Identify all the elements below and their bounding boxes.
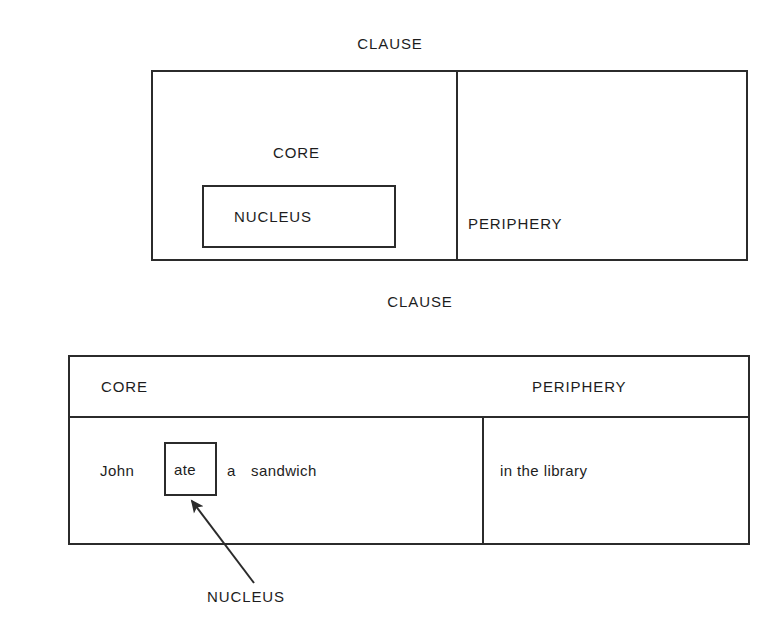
table-header-divider-diagram-two (68, 416, 750, 418)
nucleus-callout-arrow-icon (170, 490, 280, 590)
periphery-label-diagram-one: PERIPHERY (468, 216, 563, 231)
core-word-nucleus: ate (174, 462, 196, 477)
diagram-one-clause-title: CLAUSE (0, 36, 780, 51)
diagram-one-clause-title-text: CLAUSE (357, 36, 422, 51)
core-word-determiner: a (227, 463, 236, 478)
core-word-subject: John (100, 463, 134, 478)
periphery-phrase-diagram-two: in the library (500, 463, 587, 478)
core-periphery-divider-diagram-one (456, 70, 458, 261)
nucleus-callout-label-diagram-two: NUCLEUS (207, 589, 285, 604)
diagram-two-clause-title: CLAUSE (60, 294, 780, 309)
periphery-header-diagram-two: PERIPHERY (532, 379, 627, 394)
core-word-object: sandwich (251, 463, 317, 478)
table-column-divider-diagram-two (482, 416, 484, 545)
diagram-two-clause-title-text: CLAUSE (387, 293, 452, 310)
core-header-diagram-two: CORE (101, 379, 148, 394)
core-label-diagram-one: CORE (273, 145, 320, 160)
nucleus-label-diagram-one: NUCLEUS (234, 209, 312, 224)
figure-canvas: CLAUSE CORE NUCLEUS PERIPHERY CLAUSE COR… (0, 0, 780, 628)
